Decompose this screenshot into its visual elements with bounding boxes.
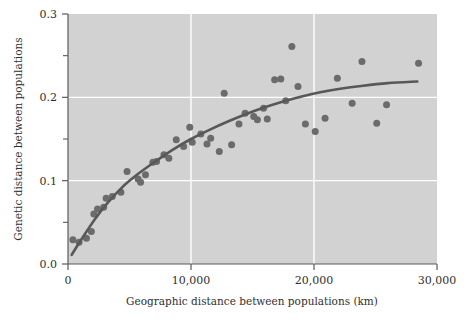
data-point — [142, 171, 149, 178]
data-point — [383, 101, 390, 108]
x-tick-label: 10,000 — [172, 274, 211, 287]
x-tick-label: 20,000 — [295, 274, 334, 287]
data-point — [186, 124, 193, 131]
plot-background — [68, 14, 437, 264]
data-point — [221, 90, 228, 97]
x-axis-title: Geographic distance between populations … — [126, 295, 378, 307]
data-point — [264, 116, 271, 123]
data-point — [373, 120, 380, 127]
y-tick-label: 0.0 — [40, 258, 58, 271]
data-point — [295, 83, 302, 90]
y-tick-label: 0.2 — [40, 91, 58, 104]
data-point — [277, 76, 284, 83]
data-point — [334, 75, 341, 82]
x-tick-labels: 010,00020,00030,000 — [65, 274, 457, 287]
y-tick-label: 0.3 — [40, 8, 58, 21]
x-tick-label: 30,000 — [418, 274, 457, 287]
data-point — [165, 155, 172, 162]
data-point — [203, 141, 210, 148]
data-point — [137, 179, 144, 186]
data-point — [228, 141, 235, 148]
data-point — [312, 128, 319, 135]
data-point — [173, 136, 180, 143]
data-point — [322, 115, 329, 122]
data-point — [349, 100, 356, 107]
data-point — [216, 148, 223, 155]
data-point — [69, 236, 76, 243]
data-point — [207, 135, 214, 142]
data-point — [415, 60, 422, 67]
data-point — [271, 76, 278, 83]
y-axis-title: Genetic distance between populations — [12, 37, 24, 240]
data-point — [302, 121, 309, 128]
data-point — [254, 116, 261, 123]
data-point — [124, 168, 131, 175]
y-tick-label: 0.1 — [40, 175, 58, 188]
x-tick-label: 0 — [65, 274, 72, 287]
y-tick-labels: 0.00.10.20.3 — [40, 8, 58, 271]
data-point — [288, 43, 295, 50]
data-point — [235, 121, 242, 128]
data-point — [358, 58, 365, 65]
figure-container: 010,00020,00030,000 0.00.10.20.3 Geograp… — [0, 0, 471, 323]
scatter-plot: 010,00020,00030,000 0.00.10.20.3 Geograp… — [0, 0, 471, 323]
